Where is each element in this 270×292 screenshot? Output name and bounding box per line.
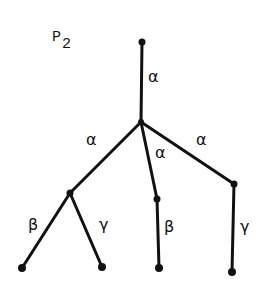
edges-group	[22, 42, 234, 272]
edge-labels-group: ααααβγβγ	[28, 67, 249, 236]
node-root	[139, 39, 146, 46]
edge-mid-leaf3	[157, 199, 159, 268]
edge-label: γ	[240, 217, 249, 236]
node-leaf1	[18, 264, 26, 272]
tree-diagram: P2 ααααβγβγ	[0, 0, 270, 292]
node-left	[67, 190, 74, 197]
edge-right-leaf4	[232, 184, 234, 272]
edge-label: α	[155, 143, 166, 162]
edge-label: γ	[99, 215, 108, 234]
node-leaf4	[228, 268, 236, 276]
edge-label: α	[196, 130, 207, 149]
edge-label: α	[86, 130, 97, 149]
nodes-group	[18, 39, 238, 277]
diagram-title: P2	[52, 29, 71, 53]
title-subscript: 2	[62, 36, 71, 53]
node-leaf3	[155, 264, 163, 272]
edge-left-leaf2	[70, 193, 102, 267]
node-right	[231, 181, 238, 188]
edge-hub-left	[70, 122, 141, 193]
edge-label: β	[164, 217, 174, 236]
node-leaf2	[98, 263, 106, 271]
node-hub	[138, 119, 144, 125]
edge-label: β	[28, 215, 38, 234]
edge-label: α	[148, 67, 159, 86]
title-main: P	[52, 29, 61, 46]
edge-root-hub	[141, 42, 142, 122]
node-mid	[154, 196, 161, 203]
